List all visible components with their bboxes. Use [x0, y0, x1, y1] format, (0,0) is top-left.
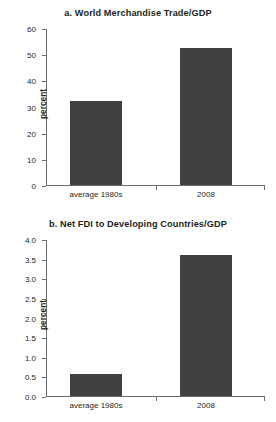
panel-b-ytick-label-2-0: 2.0	[25, 314, 36, 323]
panel-a-ytick-30: 30	[42, 108, 46, 109]
figure-two-panel-bar-charts: a. World Merchandise Trade/GDP percent 6…	[0, 0, 276, 422]
panel-b-plot-area: percent 4.0 3.5 3.0 2.5 2.0 1.5 1.0	[46, 240, 265, 397]
panel-b-bar-2008	[180, 255, 232, 396]
panel-a-ytick-label-10: 10	[27, 155, 36, 164]
panel-b-ytick-0-0: 0.0	[42, 397, 46, 398]
panel-b-ytick-label-4-0: 4.0	[25, 236, 36, 245]
panel-a-ytick-0: 0	[42, 186, 46, 187]
panel-a-ytick-label-0: 0	[32, 182, 36, 191]
panel-b-ytick-1-5: 1.5	[42, 338, 46, 339]
panel-b-ytick-1-0: 1.0	[42, 358, 46, 359]
panel-a-ytick-label-20: 20	[27, 129, 36, 138]
panel-b-xtick-end	[264, 397, 265, 401]
panel-a-ytick-label-30: 30	[27, 103, 36, 112]
panel-a-xtick-label-1: 2008	[197, 190, 215, 199]
chart-panel-a: a. World Merchandise Trade/GDP percent 6…	[0, 0, 276, 211]
chart-panel-b: b. Net FDI to Developing Countries/GDP p…	[0, 211, 276, 422]
panel-b-ytick-label-0-0: 0.0	[25, 393, 36, 402]
panel-b-title: b. Net FDI to Developing Countries/GDP	[0, 219, 276, 229]
panel-b-ytick-label-0-5: 0.5	[25, 373, 36, 382]
panel-b-xtick-label-1: 2008	[197, 401, 215, 410]
panel-b-ytick-2-5: 2.5	[42, 299, 46, 300]
panel-b-ytick-label-3-5: 3.5	[25, 255, 36, 264]
panel-a-plot-area: percent 60 50 40 30 20 10 0	[46, 29, 265, 186]
panel-a-xtick-end	[264, 186, 265, 190]
panel-a-bar-average-1980s	[70, 101, 122, 185]
panel-b-y-axis-label: percent	[38, 300, 48, 330]
panel-b-ytick-3-5: 3.5	[42, 260, 46, 261]
panel-a-xtick-mid	[156, 186, 157, 190]
panel-a-title: a. World Merchandise Trade/GDP	[0, 8, 276, 18]
panel-a-ytick-label-40: 40	[27, 77, 36, 86]
panel-a-ytick-50: 50	[42, 55, 46, 56]
panel-b-ytick-0-5: 0.5	[42, 377, 46, 378]
panel-a-ytick-20: 20	[42, 134, 46, 135]
panel-a-ytick-label-60: 60	[27, 25, 36, 34]
panel-a-xtick-label-0: average 1980s	[70, 190, 123, 199]
panel-a-ytick-60: 60	[42, 29, 46, 30]
panel-a-ytick-10: 10	[42, 160, 46, 161]
panel-b-ytick-label-2-5: 2.5	[25, 294, 36, 303]
panel-a-y-axis-label: percent	[38, 89, 48, 119]
panel-b-ytick-4-0: 4.0	[42, 240, 46, 241]
panel-b-ytick-label-1-0: 1.0	[25, 353, 36, 362]
panel-b-ytick-3-0: 3.0	[42, 279, 46, 280]
panel-b-xtick-label-0: average 1980s	[70, 401, 123, 410]
panel-b-ytick-2-0: 2.0	[42, 319, 46, 320]
panel-b-ytick-label-1-5: 1.5	[25, 334, 36, 343]
panel-b-bar-average-1980s	[70, 374, 122, 396]
panel-a-ytick-label-50: 50	[27, 51, 36, 60]
panel-a-ytick-40: 40	[42, 81, 46, 82]
panel-a-bar-2008	[180, 48, 232, 185]
panel-b-ytick-label-3-0: 3.0	[25, 275, 36, 284]
panel-b-xtick-mid	[156, 397, 157, 401]
